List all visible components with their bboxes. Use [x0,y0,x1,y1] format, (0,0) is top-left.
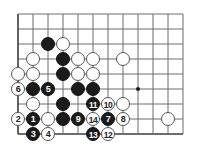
numbered-stone-11[interactable]: 11 [86,97,100,111]
stone-number-label: 5 [46,85,51,94]
numbered-stone-3[interactable]: 3 [26,127,40,141]
stone-number-label: 9 [76,115,81,124]
black-stone[interactable] [56,97,70,111]
black-stone[interactable] [86,82,100,96]
numbered-stone-6[interactable]: 6 [11,82,25,96]
stone-number-label: 4 [46,130,51,139]
numbered-stone-10[interactable]: 10 [101,97,115,111]
numbered-stone-2[interactable]: 2 [11,112,25,126]
stone-number-label: 1 [31,115,36,124]
white-stone[interactable] [86,67,100,81]
numbered-stone-14[interactable]: 14 [86,112,100,126]
stone-number-label: 6 [16,85,21,94]
black-stone[interactable] [41,37,55,51]
stone-number-label: 2 [16,115,21,124]
stone-layer: 6511102191478341312 [0,0,206,147]
stone-number-label: 14 [89,115,97,124]
black-stone[interactable] [56,67,70,81]
hoshi-star-point [136,87,140,91]
stone-number-label: 11 [89,100,97,109]
white-stone[interactable] [116,52,130,66]
numbered-stone-4[interactable]: 4 [41,127,55,141]
stone-number-label: 7 [106,115,111,124]
white-stone[interactable] [26,67,40,81]
stone-number-label: 10 [104,100,112,109]
numbered-stone-8[interactable]: 8 [116,112,130,126]
white-stone[interactable] [26,52,40,66]
white-stone[interactable] [41,112,55,126]
white-stone[interactable] [11,67,25,81]
numbered-stone-1[interactable]: 1 [26,112,40,126]
numbered-stone-13[interactable]: 13 [86,127,100,141]
white-stone[interactable] [71,52,85,66]
numbered-stone-7[interactable]: 7 [101,112,115,126]
white-stone[interactable] [116,97,130,111]
black-stone[interactable] [56,112,70,126]
numbered-stone-12[interactable]: 12 [101,127,115,141]
white-stone[interactable] [26,97,40,111]
numbered-stone-9[interactable]: 9 [71,112,85,126]
stone-number-label: 3 [31,130,36,139]
black-stone[interactable] [56,52,70,66]
stone-number-label: 13 [89,130,97,139]
stone-number-label: 8 [121,115,126,124]
white-stone[interactable] [56,37,70,51]
white-stone[interactable] [161,112,175,126]
black-stone[interactable] [26,82,40,96]
go-board-diagram: 6511102191478341312 [0,0,206,147]
numbered-stone-5[interactable]: 5 [41,82,55,96]
white-stone[interactable] [86,52,100,66]
black-stone[interactable] [71,82,85,96]
stone-number-label: 12 [104,130,112,139]
white-stone[interactable] [71,67,85,81]
